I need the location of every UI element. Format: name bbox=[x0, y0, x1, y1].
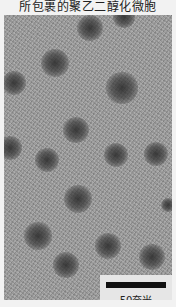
figure-caption: 所包裹的聚乙二醇化微胞 bbox=[0, 0, 176, 15]
micelle-particle bbox=[104, 143, 128, 167]
micelle-particle bbox=[35, 148, 59, 172]
micelle-particle bbox=[106, 72, 137, 103]
microscopy-image: 50奈米 bbox=[4, 15, 172, 300]
scale-bar-label: 50奈米 bbox=[100, 292, 172, 300]
scale-bar-box: 50奈米 bbox=[100, 275, 172, 300]
scale-bar bbox=[106, 282, 166, 288]
micelle-particle bbox=[144, 142, 168, 166]
micelle-particle bbox=[161, 198, 172, 212]
